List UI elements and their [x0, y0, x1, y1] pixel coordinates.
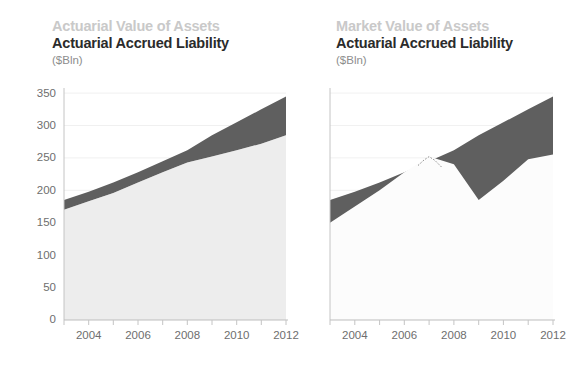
- chart-panel-left: Actuarial Value of Assets Actuarial Accr…: [0, 0, 289, 369]
- x-tick-label-2008-right: 2008: [434, 330, 474, 341]
- x-tick-label-2010-left: 2010: [217, 330, 257, 341]
- x-tick-label-2012-right: 2012: [533, 330, 573, 341]
- x-axis-ticks-right: [330, 320, 553, 325]
- x-tick-label-2010-right: 2010: [483, 330, 523, 341]
- y-tick-label-250-left: 250: [22, 152, 56, 163]
- y-tick-label-150-left: 150: [22, 217, 56, 228]
- y-tick-label-50-left: 50: [22, 282, 56, 293]
- x-tick-label-2006-right: 2006: [384, 330, 424, 341]
- x-tick-label-2006-left: 2006: [118, 330, 158, 341]
- chart-panel-right: Market Value of Assets Actuarial Accrued…: [290, 0, 579, 369]
- y-tick-label-350-left: 350: [22, 88, 56, 99]
- x-axis-ticks-left: [64, 320, 286, 325]
- y-tick-label-300-left: 300: [22, 120, 56, 131]
- y-tick-label-100-left: 100: [22, 250, 56, 261]
- panel-right-plot: [290, 0, 579, 369]
- chart-figure: Actuarial Value of Assets Actuarial Accr…: [0, 0, 579, 369]
- x-tick-label-2004-left: 2004: [69, 330, 109, 341]
- x-tick-label-2008-left: 2008: [167, 330, 207, 341]
- y-tick-label-0-left: 0: [22, 314, 56, 325]
- x-tick-label-2004-right: 2004: [335, 330, 375, 341]
- y-tick-label-200-left: 200: [22, 185, 56, 196]
